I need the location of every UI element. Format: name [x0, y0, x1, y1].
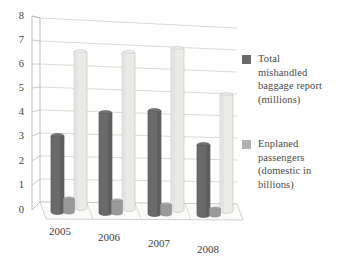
- bar-2005-enplaned-small: [64, 197, 75, 214]
- y-axis-ticks: [32, 16, 40, 210]
- y-tick-3: 3: [8, 130, 24, 141]
- y-tick-4: 4: [8, 106, 24, 117]
- y-tick-5: 5: [8, 82, 24, 93]
- bar-2008-enplaned-tall: [220, 93, 233, 214]
- bar-2006-enplaned-tall: [122, 51, 135, 212]
- bar-2005-enplaned-tall: [74, 50, 87, 211]
- legend-swatch-icon-mishandled: [242, 55, 251, 64]
- y-tick-1: 1: [8, 179, 24, 190]
- x-tick-2008: 2008: [197, 243, 219, 255]
- chart-container: 8 7 6 5 4 3 2 1 0 2005 2006 2007 2008 To…: [0, 0, 344, 265]
- y-tick-7: 7: [8, 34, 24, 45]
- legend-label-enplaned: Enplaned passengers (domestic in billion…: [258, 137, 311, 191]
- y-tick-8: 8: [8, 10, 24, 21]
- y-tick-0: 0: [8, 204, 24, 215]
- legend-entry-enplaned-passengers[interactable]: Enplaned passengers (domestic in billion…: [242, 137, 311, 191]
- bar-2007-enplaned-small: [161, 203, 172, 216]
- bar-group-2008: [197, 93, 233, 218]
- bar-group-2006: [99, 51, 135, 216]
- y-tick-6: 6: [8, 58, 24, 69]
- legend-entry-mishandled-baggage[interactable]: Total mishandled baggage report (million…: [242, 52, 322, 106]
- bar-2007-mishandled: [148, 109, 161, 217]
- bar-group-2005: [51, 50, 87, 215]
- bar-2005-mishandled: [51, 134, 64, 215]
- x-tick-2007: 2007: [148, 237, 170, 249]
- x-tick-2005: 2005: [49, 225, 71, 237]
- x-tick-2006: 2006: [98, 231, 120, 243]
- bar-2006-enplaned-small: [112, 199, 123, 215]
- y-axis: [32, 16, 40, 210]
- legend-label-mishandled: Total mishandled baggage report (million…: [258, 52, 322, 106]
- bar-group-2007: [148, 47, 184, 217]
- legend-swatch-icon-enplaned: [242, 140, 251, 149]
- bar-2008-enplaned-small: [210, 207, 221, 217]
- bar-2008-mishandled: [197, 143, 210, 218]
- y-tick-2: 2: [8, 155, 24, 166]
- bar-2006-mishandled: [99, 111, 112, 216]
- bar-2007-enplaned-tall: [171, 47, 184, 213]
